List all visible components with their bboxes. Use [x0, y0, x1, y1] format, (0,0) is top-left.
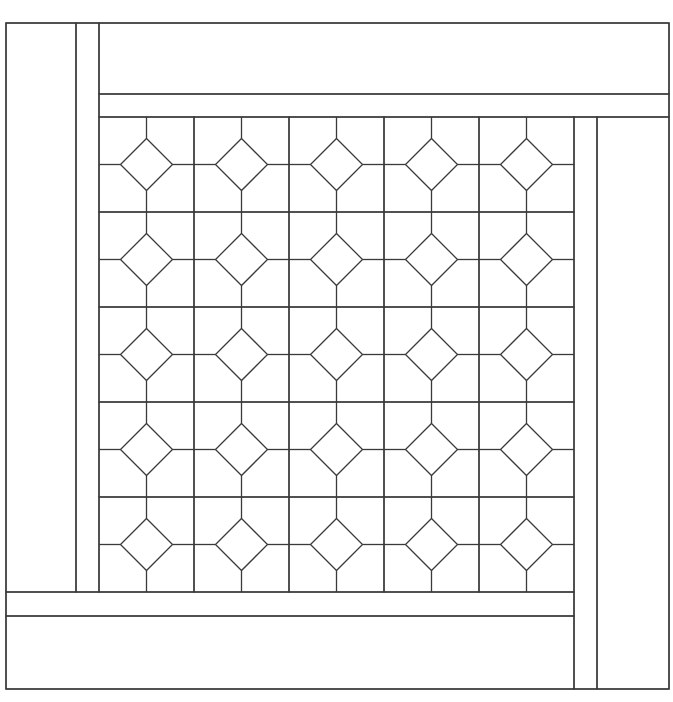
quilt-block	[289, 497, 384, 592]
diamond	[501, 139, 553, 191]
right-inner-strip	[574, 117, 597, 689]
diamond	[121, 234, 173, 286]
diamond	[216, 424, 268, 476]
diamond-block-grid	[99, 117, 574, 592]
quilt-block	[479, 497, 574, 592]
diamond	[216, 234, 268, 286]
diamond	[406, 519, 458, 571]
diamond	[406, 424, 458, 476]
border-strips	[6, 23, 669, 689]
diamond	[406, 234, 458, 286]
quilt-block	[99, 117, 194, 212]
quilt-block	[479, 402, 574, 497]
quilt-block	[99, 212, 194, 307]
bottom-inner-strip	[6, 592, 574, 616]
quilt-block	[194, 497, 289, 592]
quilt-block	[194, 307, 289, 402]
diamond	[501, 329, 553, 381]
outer-frame	[6, 23, 669, 689]
quilt-block	[384, 402, 479, 497]
top-outer-strip	[99, 23, 669, 94]
diamond	[406, 329, 458, 381]
diamond	[121, 424, 173, 476]
diamond	[216, 519, 268, 571]
diamond	[501, 234, 553, 286]
quilt-block	[384, 212, 479, 307]
quilt-block	[384, 497, 479, 592]
quilt-block	[99, 307, 194, 402]
bottom-outer-strip	[6, 616, 574, 689]
quilt-block	[479, 117, 574, 212]
diamond	[121, 519, 173, 571]
diamond	[216, 139, 268, 191]
quilt-block	[194, 212, 289, 307]
quilt-pattern-drawing	[0, 0, 673, 702]
quilt-block	[194, 117, 289, 212]
quilt-block	[99, 402, 194, 497]
left-inner-strip	[76, 23, 99, 592]
quilt-block	[289, 307, 384, 402]
left-outer-strip	[6, 23, 76, 592]
diamond	[406, 139, 458, 191]
quilt-block	[289, 117, 384, 212]
diamond	[501, 424, 553, 476]
diamond	[121, 139, 173, 191]
quilt-block	[194, 402, 289, 497]
quilt-block	[384, 307, 479, 402]
diamond	[311, 139, 363, 191]
quilt-block	[289, 402, 384, 497]
quilt-block	[99, 497, 194, 592]
top-inner-strip	[99, 94, 669, 117]
diamond	[311, 519, 363, 571]
diamond	[311, 234, 363, 286]
quilt-block	[384, 117, 479, 212]
quilt-block	[289, 212, 384, 307]
quilt-block	[479, 307, 574, 402]
diamond	[121, 329, 173, 381]
quilt-block	[479, 212, 574, 307]
quilt-diagram	[0, 0, 673, 702]
diamond	[311, 424, 363, 476]
diamond	[311, 329, 363, 381]
diamond	[216, 329, 268, 381]
right-outer-strip	[597, 117, 669, 689]
diamond	[501, 519, 553, 571]
